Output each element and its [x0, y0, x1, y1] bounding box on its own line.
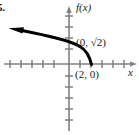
coordinate-plane — [0, 0, 139, 135]
exercise-figure: 5. — [0, 0, 139, 135]
y-axis-arrowhead — [66, 6, 71, 13]
problem-number: 5. — [0, 1, 5, 13]
y-intercept-label: (0, √2) — [76, 36, 106, 48]
x-intercept-label: (2, 0) — [75, 68, 99, 80]
curve-arrowhead — [9, 27, 25, 33]
x-axis-label: x — [128, 66, 133, 78]
y-axis-label: f(x) — [76, 1, 91, 13]
